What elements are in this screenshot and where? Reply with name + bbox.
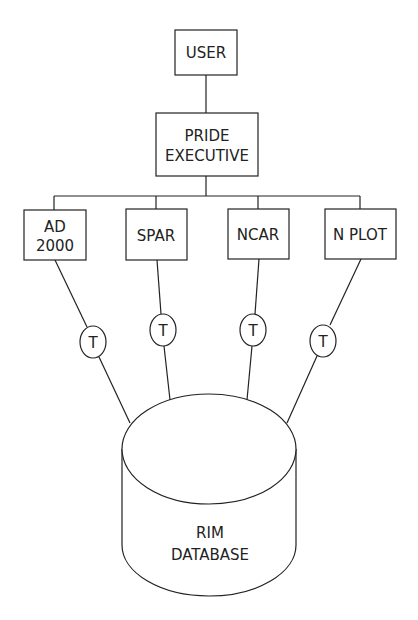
ad2000-label-line1: AD: [44, 218, 66, 236]
module-ncar: NCAR: [228, 209, 289, 259]
t3-label: T: [247, 322, 258, 340]
module-spar: SPAR: [126, 209, 187, 260]
connector-ad2000-t1: [55, 260, 87, 327]
connector-t3-db: [247, 346, 252, 400]
connector-t4-db: [287, 356, 317, 423]
executive-label-line1: PRIDE: [185, 127, 230, 145]
cylinder-top: [122, 394, 296, 504]
t2-label: T: [157, 322, 168, 340]
t4-label: T: [317, 333, 328, 351]
ncar-label: NCAR: [237, 226, 279, 244]
user-node: USER: [175, 30, 237, 75]
module-nplot: N PLOT: [325, 209, 396, 259]
executive-node: PRIDE EXECUTIVE: [156, 113, 258, 176]
connector-t1-db: [99, 357, 130, 423]
database-cylinder: RIM DATABASE: [122, 394, 296, 596]
translator-t1: T: [80, 326, 106, 358]
executive-label-line2: EXECUTIVE: [165, 147, 249, 165]
connector-t2-db: [164, 346, 170, 400]
connector-spar-t2: [157, 260, 161, 314]
database-label-line1: RIM: [196, 524, 224, 542]
translator-t2: T: [150, 314, 176, 346]
user-label: USER: [186, 44, 226, 62]
translator-t3: T: [240, 314, 266, 346]
nplot-label: N PLOT: [333, 226, 388, 244]
t1-label: T: [87, 334, 98, 352]
diagram-canvas: USER PRIDE EXECUTIVE AD 2000 SPAR NCAR N…: [0, 0, 418, 620]
translator-t4: T: [310, 325, 336, 357]
spar-label: SPAR: [137, 227, 175, 245]
database-label-line2: DATABASE: [171, 546, 249, 564]
ad2000-label-line2: 2000: [36, 237, 74, 255]
connector-nplot-t4: [330, 259, 361, 325]
connector-ncar-t3: [255, 259, 259, 314]
module-ad2000: AD 2000: [24, 210, 86, 260]
